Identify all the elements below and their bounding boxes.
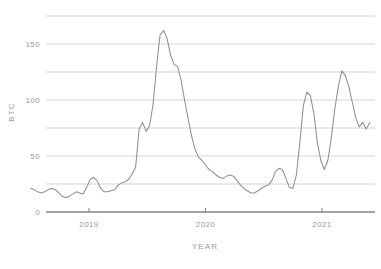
x-tick-labels: 201920202021 — [79, 220, 332, 229]
y-tick-label-100: 100 — [25, 96, 40, 105]
y-tick-labels: 050100150 — [25, 40, 40, 217]
x-tick-label-2021: 2021 — [312, 220, 332, 229]
chart-canvas: 201920202021 050100150 BTC YEAR — [0, 0, 381, 269]
gridlines — [46, 16, 375, 184]
tick-marks — [89, 208, 322, 212]
x-axis-title: YEAR — [192, 242, 218, 251]
y-tick-label-50: 50 — [30, 152, 40, 161]
x-tick-label-2020: 2020 — [196, 220, 216, 229]
data-series — [31, 31, 370, 198]
y-tick-label-150: 150 — [25, 40, 40, 49]
y-axis-title: BTC — [7, 102, 16, 121]
series-line-0 — [31, 31, 370, 198]
x-tick-label-2019: 2019 — [79, 220, 99, 229]
line-chart: 201920202021 050100150 BTC YEAR — [0, 0, 381, 269]
y-tick-label-0: 0 — [35, 208, 40, 217]
